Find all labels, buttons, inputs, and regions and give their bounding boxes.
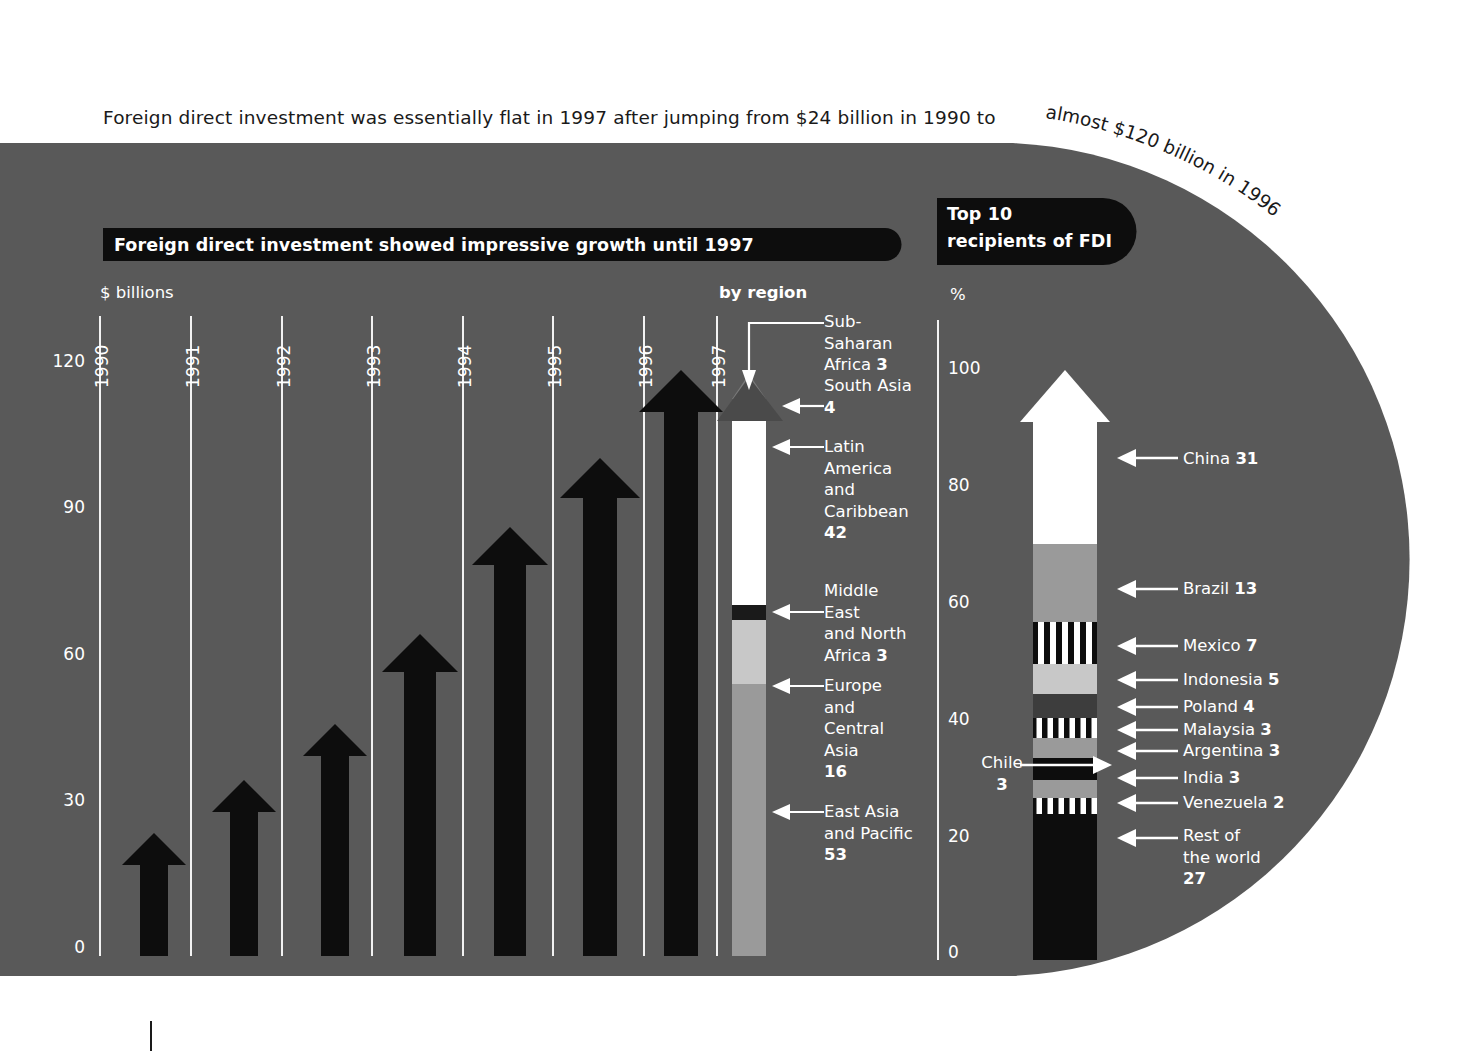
bar-1996 — [639, 370, 723, 956]
country-callout-venezuela-value: 2 — [1273, 793, 1284, 812]
registration-tick-mark — [150, 1021, 152, 1051]
right-chart-title-line1: Top 10 — [947, 204, 1012, 224]
country-callout-venezuela-name: Venezuela — [1183, 793, 1268, 812]
bar-1997-by-region — [717, 374, 827, 964]
country-callout-malaysia-value: 3 — [1260, 720, 1271, 739]
country-callout-china-name: China — [1183, 449, 1230, 468]
bar-1992 — [303, 724, 367, 956]
bar-1991 — [212, 780, 276, 956]
region-stack-shape — [717, 374, 827, 964]
country-callout-chile-value: 3 — [996, 775, 1007, 794]
right-chart-ribbon: Top 10 recipients of FDI — [937, 198, 1137, 265]
right-axis-unit-label: % — [950, 285, 966, 304]
region-callout-latin-america-line1: Latin — [824, 437, 865, 456]
region-callout-east-asia-line1: East Asia — [824, 802, 899, 821]
top10-seg-poland — [1033, 694, 1097, 718]
right-ytick-100: 100 — [948, 358, 1008, 378]
bar-1993 — [382, 634, 458, 956]
country-callout-brazil-value: 13 — [1234, 579, 1257, 598]
region-callout-east-asia-line2: and Pacific — [824, 824, 913, 843]
top10-seg-china — [1033, 422, 1097, 544]
gridline-1995 — [552, 316, 554, 956]
region-callout-east-asia-pacific: East Asia and Pacific 53 — [824, 801, 939, 866]
region-callout-east-asia-value: 53 — [824, 845, 847, 864]
region-seg-latin-america — [732, 421, 766, 605]
right-ytick-80: 80 — [948, 475, 1008, 495]
right-ytick-60: 60 — [948, 592, 1008, 612]
gridline-1990 — [99, 316, 101, 956]
region-callout-mena-line3: and North — [824, 624, 906, 643]
region-callout-south-asia-value: 4 — [824, 398, 835, 417]
country-callout-indonesia-value: 5 — [1268, 670, 1279, 689]
country-callout-india-value: 3 — [1229, 768, 1240, 787]
country-callout-china: China 31 — [1183, 448, 1258, 470]
region-callout-mena: Middle East and North Africa 3 — [824, 580, 934, 666]
top10-stack-shape — [1020, 370, 1130, 960]
top10-seg-malaysia — [1033, 718, 1097, 738]
bar-1995 — [560, 458, 640, 960]
country-callout-malaysia-name: Malaysia — [1183, 720, 1255, 739]
top10-seg-india — [1033, 780, 1097, 798]
gridline-1991 — [190, 316, 192, 956]
bar-1990 — [122, 833, 186, 956]
region-callout-europe-line2: and — [824, 698, 855, 717]
country-callout-china-value: 31 — [1235, 449, 1258, 468]
left-axis-unit-label: $ billions — [100, 283, 174, 302]
region-callout-sub-saharan: Sub- Saharan Africa 3 — [824, 311, 934, 376]
country-callout-malaysia: Malaysia 3 — [1183, 719, 1272, 741]
country-callout-mexico-value: 7 — [1246, 636, 1257, 655]
country-callout-poland-name: Poland — [1183, 697, 1238, 716]
left-ytick-30: 30 — [30, 790, 85, 810]
top10-seg-argentina — [1033, 738, 1097, 758]
region-callout-south-asia: South Asia 4 — [824, 375, 934, 418]
top10-seg-mexico — [1033, 622, 1097, 664]
headline-straight-text: Foreign direct investment was essentiall… — [103, 107, 996, 128]
region-seg-east-asia-pacific — [732, 684, 766, 956]
top10-seg-china-head — [1020, 370, 1110, 422]
region-callout-sub-saharan-value: 3 — [876, 355, 887, 374]
country-callout-rest-line2: the world — [1183, 848, 1261, 867]
right-chart-title-line2: recipients of FDI — [947, 231, 1112, 251]
top10-seg-brazil — [1033, 544, 1097, 622]
right-ytick-20: 20 — [948, 826, 1008, 846]
country-callout-brazil-name: Brazil — [1183, 579, 1229, 598]
country-callout-argentina: Argentina 3 — [1183, 740, 1280, 762]
region-callout-latin-america-line4: Caribbean — [824, 502, 909, 521]
country-callout-mexico-name: Mexico — [1183, 636, 1241, 655]
year-label-1995: 1995 — [545, 345, 565, 388]
left-chart-title: Foreign direct investment showed impress… — [114, 235, 754, 255]
region-seg-europe-central-asia — [732, 620, 766, 684]
left-ytick-60: 60 — [30, 644, 85, 664]
region-callout-latin-america: Latin America and Caribbean 42 — [824, 436, 934, 544]
region-callout-mena-line1: Middle — [824, 581, 879, 600]
country-callout-argentina-name: Argentina — [1183, 741, 1264, 760]
region-callout-mena-line4: Africa — [824, 646, 876, 665]
region-callout-mena-line2: East — [824, 603, 860, 622]
country-callout-venezuela: Venezuela 2 — [1183, 792, 1284, 814]
region-callout-sub-saharan-line2: Saharan — [824, 334, 893, 353]
country-callout-rest-of-world: Rest of the world 27 — [1183, 825, 1303, 890]
country-callout-poland-value: 4 — [1243, 697, 1254, 716]
country-callout-rest-value: 27 — [1183, 869, 1206, 888]
year-label-1990: 1990 — [92, 345, 112, 388]
year-label-1994: 1994 — [455, 345, 475, 388]
country-callout-india-name: India — [1183, 768, 1224, 787]
region-callout-mena-value: 3 — [876, 646, 887, 665]
top10-seg-venezuela — [1033, 798, 1097, 814]
country-callout-indonesia-name: Indonesia — [1183, 670, 1263, 689]
top10-seg-chile — [1033, 758, 1097, 780]
right-ytick-40: 40 — [948, 709, 1008, 729]
left-chart-ribbon: Foreign direct investment showed impress… — [103, 228, 915, 261]
country-callout-mexico: Mexico 7 — [1183, 635, 1257, 657]
infographic-root: Foreign direct investment was essentiall… — [0, 0, 1483, 1051]
region-callout-europe-line1: Europe — [824, 676, 882, 695]
country-callout-india: India 3 — [1183, 767, 1240, 789]
left-ytick-90: 90 — [30, 497, 85, 517]
right-chart-axis-line — [937, 320, 939, 960]
region-seg-mena — [732, 605, 766, 620]
country-callout-chile-name: Chile — [981, 753, 1022, 772]
by-region-label: by region — [719, 283, 807, 302]
country-callout-argentina-value: 3 — [1269, 741, 1280, 760]
region-callout-south-asia-line1: South Asia — [824, 376, 912, 395]
year-label-1991: 1991 — [183, 345, 203, 388]
